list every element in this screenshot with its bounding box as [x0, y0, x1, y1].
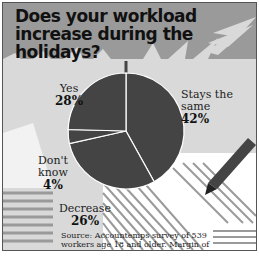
source-note: Source: Accountemps survey of 539 worker…	[61, 231, 211, 251]
label-dont-know: Don't know 4%	[37, 155, 69, 191]
pie-chart	[68, 73, 184, 189]
infographic-frame: Does your workload increase during the h…	[2, 2, 257, 251]
chart-title: Does your workload increase during the h…	[15, 7, 255, 61]
label-yes: Yes 28%	[55, 83, 83, 107]
label-stays-the-same: Stays the same 42%	[181, 89, 241, 125]
label-decrease: Decrease 26%	[59, 203, 111, 227]
